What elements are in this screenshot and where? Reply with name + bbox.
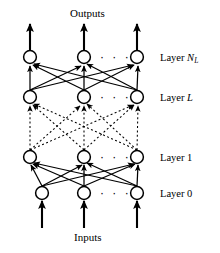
node-layer-0-2 — [78, 187, 91, 200]
node-layer-0-1 — [36, 187, 49, 200]
output-arrows — [30, 24, 137, 50]
node-layer-1-2 — [78, 151, 91, 164]
node-layer-nl-3 — [131, 51, 144, 64]
label-layer-1: Layer 1 — [160, 153, 192, 164]
label-layer-nl-prefix: Layer — [160, 52, 187, 63]
node-layer-l-2 — [78, 91, 91, 104]
ellipsis-layer-0: · · · — [100, 190, 131, 196]
label-layer-nl: Layer NL — [160, 53, 198, 65]
network-graphic — [0, 0, 220, 253]
ellipsis-layer-1: · · · — [100, 154, 131, 160]
inputs-caption: Inputs — [74, 232, 102, 243]
node-layer-nl-2 — [78, 51, 91, 64]
neural-network-diagram: Outputs Inputs · · · · · · · · · · · · L… — [0, 0, 220, 253]
edges-layerL-to-layerNL — [30, 64, 138, 90]
label-layer-nl-subscript: L — [194, 56, 198, 65]
label-layer-l-symbol: L — [187, 92, 193, 103]
edges-layer0-to-layer1 — [31, 163, 138, 186]
node-layer-1-1 — [24, 151, 37, 164]
node-layer-l-1 — [24, 91, 37, 104]
ellipsis-layer-nl: · · · — [100, 54, 131, 60]
node-layer-1-3 — [131, 151, 144, 164]
node-layer-l-3 — [131, 91, 144, 104]
label-layer-0: Layer 0 — [160, 189, 192, 200]
node-layer-0-3 — [131, 187, 144, 200]
edges-layer1-to-layerL — [30, 104, 138, 150]
input-arrows — [42, 201, 137, 228]
label-layer-l: Layer L — [160, 93, 193, 104]
node-layer-nl-1 — [24, 51, 37, 64]
ellipsis-layer-l: · · · — [100, 94, 131, 100]
label-layer-l-prefix: Layer — [160, 92, 187, 103]
outputs-caption: Outputs — [70, 8, 105, 19]
